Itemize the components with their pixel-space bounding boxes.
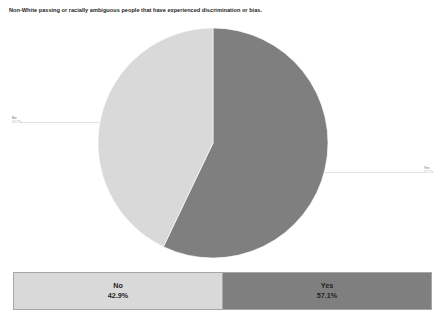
- legend-cell-no: No 42.9%: [14, 273, 223, 309]
- pie-callout-percent-no: 42.9%: [12, 120, 21, 124]
- pie-chart-graphic: [98, 28, 328, 258]
- leader-line-no: [20, 122, 105, 123]
- pie-callout-name-no: No: [12, 116, 16, 120]
- legend-label-no: No: [113, 281, 123, 291]
- pie-callout-label-yes: Yes 57.1%: [424, 166, 433, 175]
- chart-title: Non-White passing or racially ambiguous …: [9, 6, 429, 14]
- pie-callout-name-yes: Yes: [424, 166, 430, 170]
- pie-callout-label-no: No 42.9%: [12, 116, 21, 125]
- pie-callout-percent-yes: 57.1%: [424, 170, 433, 174]
- leader-line-yes: [324, 172, 424, 173]
- pie-svg: [98, 28, 328, 258]
- legend-value-yes: 57.1%: [317, 291, 337, 301]
- legend-cell-yes: Yes 57.1%: [223, 273, 431, 309]
- pie-chart-figure: Non-White passing or racially ambiguous …: [0, 0, 446, 322]
- legend-value-no: 42.9%: [108, 291, 128, 301]
- legend-table: No 42.9% Yes 57.1%: [13, 272, 432, 310]
- legend-label-yes: Yes: [321, 281, 333, 291]
